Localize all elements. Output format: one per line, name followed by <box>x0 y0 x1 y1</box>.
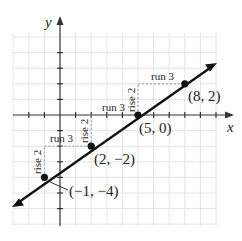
point-label-5-0: (5, 0) <box>139 120 172 137</box>
rise-label-3: rise 2 <box>125 88 137 112</box>
x-axis-label: x <box>226 119 234 135</box>
run-label-1: run 3 <box>50 132 73 144</box>
rise-label-1: rise 2 <box>31 150 43 174</box>
leader-line <box>50 182 68 190</box>
y-axis-arrow-icon <box>57 16 64 25</box>
point-label-8-2: (8, 2) <box>188 88 221 105</box>
point-8-2 <box>181 80 188 87</box>
point-label-neg1-neg4: (−1, −4) <box>69 183 118 200</box>
rise-label-2: rise 2 <box>78 119 90 143</box>
coordinate-graph: x y (8, 2) (5, 0) (2, −2) (−1, −4) run 3… <box>0 0 242 241</box>
run-label-3: run 3 <box>151 70 174 82</box>
x-axis-arrow-icon <box>225 112 234 119</box>
graph-line <box>19 68 210 202</box>
run-label-2: run 3 <box>102 101 125 113</box>
point-label-2-neg2: (2, −2) <box>94 151 135 168</box>
y-axis-label: y <box>43 14 52 30</box>
